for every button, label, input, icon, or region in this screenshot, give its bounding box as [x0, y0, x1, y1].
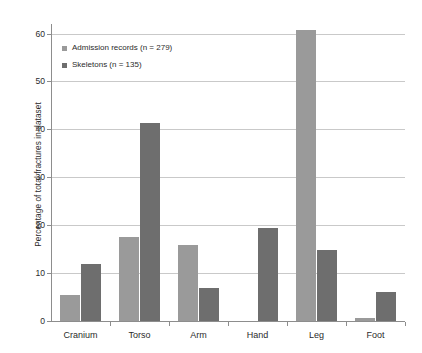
- legend-label: Admission records (n = 279): [72, 44, 172, 52]
- x-axis-category-label: Foot: [366, 330, 384, 340]
- y-tick-mark: [47, 177, 51, 178]
- x-tick-mark: [169, 322, 170, 326]
- legend-swatch-icon: [62, 63, 67, 68]
- gridline: [52, 81, 405, 82]
- x-axis-category-label: Cranium: [63, 330, 97, 340]
- y-tick-mark: [47, 129, 51, 130]
- bar-chart: Percentage of total fractures in dataset…: [0, 0, 422, 353]
- x-tick-mark: [346, 322, 347, 326]
- y-tick-label: 50: [35, 76, 45, 86]
- y-tick-mark: [47, 273, 51, 274]
- bar: [317, 250, 337, 321]
- x-tick-mark: [287, 322, 288, 326]
- y-tick-label: 60: [35, 29, 45, 39]
- bar: [296, 30, 316, 321]
- x-axis-category-label: Hand: [247, 330, 269, 340]
- x-axis-category-label: Torso: [128, 330, 150, 340]
- bar: [199, 288, 219, 321]
- bar: [178, 245, 198, 321]
- y-axis-line: [51, 24, 52, 322]
- legend-item-skeletons: Skeletons (n = 135): [62, 61, 172, 69]
- y-tick-mark: [47, 321, 51, 322]
- y-tick-label: 10: [35, 268, 45, 278]
- x-tick-mark: [405, 322, 406, 326]
- gridline: [52, 273, 405, 274]
- y-tick-mark: [47, 81, 51, 82]
- bar: [258, 228, 278, 321]
- legend-item-admission-records: Admission records (n = 279): [62, 44, 172, 52]
- bar: [119, 237, 139, 321]
- y-tick-label: 0: [40, 316, 45, 326]
- bar: [376, 292, 396, 321]
- gridline: [52, 225, 405, 226]
- bar: [140, 123, 160, 321]
- y-tick-mark: [47, 225, 51, 226]
- bar: [81, 264, 101, 321]
- gridline: [52, 34, 405, 35]
- x-tick-mark: [110, 322, 111, 326]
- bar: [355, 318, 375, 321]
- x-axis-category-label: Leg: [309, 330, 324, 340]
- gridline: [52, 177, 405, 178]
- y-tick-mark: [47, 34, 51, 35]
- bar: [60, 295, 80, 321]
- legend-swatch-icon: [62, 46, 67, 51]
- legend-label: Skeletons (n = 135): [72, 61, 142, 69]
- y-tick-label: 20: [35, 220, 45, 230]
- y-tick-label: 30: [35, 172, 45, 182]
- y-tick-label: 40: [35, 124, 45, 134]
- legend: Admission records (n = 279) Skeletons (n…: [62, 44, 172, 78]
- gridline: [52, 129, 405, 130]
- x-axis-category-label: Arm: [190, 330, 207, 340]
- x-tick-mark: [228, 322, 229, 326]
